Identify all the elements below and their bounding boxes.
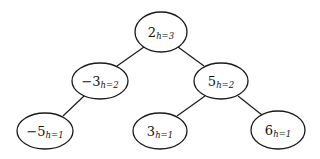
tree-diagram: 2h=3 −3h=2 5h=2 −5h=1 3h=1 6h=1 (0, 0, 320, 159)
edge-2-to-neg3 (117, 47, 144, 66)
edge-5-to-3 (177, 96, 205, 116)
edge-neg3-to-neg5 (63, 96, 84, 116)
tree-node-3: 3h=1 (133, 113, 187, 149)
tree-node-neg5: −5h=1 (17, 113, 73, 149)
tree-node-6: 6h=1 (251, 111, 305, 149)
edge-2-to-5 (178, 47, 204, 66)
tree-node-5: 5h=2 (194, 63, 248, 99)
edge-5-to-6 (238, 96, 262, 115)
tree-node-neg3: −3h=2 (72, 63, 128, 99)
tree-node-2: 2h=3 (135, 12, 187, 52)
